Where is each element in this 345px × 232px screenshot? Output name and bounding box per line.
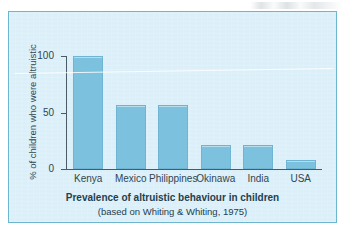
x-tick-label: Philippines: [149, 174, 197, 184]
y-tick-label: 100: [37, 51, 54, 61]
chart-title: Prevalence of altruistic behaviour in ch…: [9, 193, 336, 203]
bar: [201, 145, 231, 169]
bar: [243, 145, 273, 169]
bar: [158, 105, 188, 169]
chart-subtitle: (based on Whiting & Whiting, 1975): [9, 207, 336, 217]
x-tick-label: USA: [290, 174, 311, 184]
x-tick-label: Kenya: [74, 174, 102, 184]
y-tick-label: 50: [43, 108, 54, 118]
chart-panel: % of children who were altruistic 050100…: [8, 11, 337, 223]
figure: % of children who were altruistic 050100…: [0, 0, 345, 232]
x-tick-label: Mexico: [115, 174, 147, 184]
x-axis-line: [66, 169, 322, 170]
bar: [116, 105, 146, 169]
x-tick-label: India: [247, 174, 269, 184]
scan-artifact: [250, 2, 342, 9]
plot-area: 050100 KenyaMexicoPhilippinesOkinawaIndi…: [66, 56, 322, 170]
y-tick-label: 0: [48, 164, 54, 174]
y-tick-100: 100: [61, 56, 66, 57]
y-tick-50: 50: [61, 113, 66, 114]
y-axis-label: % of children who were altruistic: [28, 44, 38, 180]
x-tick-label: Okinawa: [196, 174, 235, 184]
bar: [73, 56, 103, 169]
bar-series: [67, 56, 322, 169]
bar: [286, 160, 316, 169]
y-tick-0: 0: [61, 169, 66, 170]
